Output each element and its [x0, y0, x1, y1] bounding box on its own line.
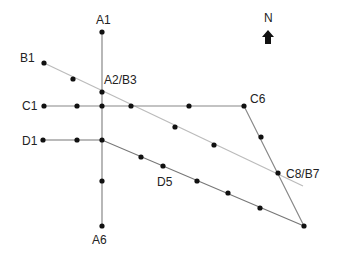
line-b: [44, 63, 303, 186]
survey-point: [128, 103, 133, 108]
point-label-d1: D1: [22, 134, 38, 148]
survey-point: [194, 178, 199, 183]
survey-point: [301, 223, 306, 228]
point-label-d5: D5: [157, 175, 173, 189]
survey-point: [186, 103, 191, 108]
point-label-a1: A1: [96, 13, 111, 27]
point-label-c6: C6: [250, 92, 266, 106]
survey-point: [74, 137, 79, 142]
survey-line-diagram: A1B1A2/B3C1C6D1D5C8/B7A6 N: [0, 0, 337, 256]
survey-point: [99, 178, 104, 183]
survey-point: [211, 142, 216, 147]
survey-point: [41, 60, 46, 65]
point-label-b1: B1: [20, 51, 35, 65]
survey-point: [99, 223, 104, 228]
line-c: [44, 106, 304, 226]
survey-point: [160, 163, 165, 168]
survey-points: [40, 29, 306, 228]
survey-point: [258, 134, 263, 139]
north-arrow-icon: [262, 30, 274, 44]
point-label-a6: A6: [92, 233, 107, 247]
survey-point: [257, 205, 262, 210]
point-label-a2-b3: A2/B3: [104, 73, 137, 87]
point-label-c1: C1: [22, 99, 38, 113]
survey-point: [99, 103, 104, 108]
point-label-c8-b7: C8/B7: [286, 167, 320, 181]
north-label: N: [264, 11, 273, 25]
survey-point: [225, 190, 230, 195]
survey-point: [138, 154, 143, 159]
survey-point: [74, 103, 79, 108]
survey-point: [275, 170, 280, 175]
survey-point: [172, 124, 177, 129]
survey-point: [99, 29, 104, 34]
survey-point: [41, 103, 46, 108]
survey-point: [40, 137, 45, 142]
survey-point: [241, 103, 246, 108]
survey-point: [70, 76, 75, 81]
line-d: [43, 140, 304, 226]
survey-point: [99, 137, 104, 142]
survey-point: [99, 89, 104, 94]
point-labels: A1B1A2/B3C1C6D1D5C8/B7A6: [20, 13, 320, 247]
north-arrow: N: [262, 11, 274, 44]
